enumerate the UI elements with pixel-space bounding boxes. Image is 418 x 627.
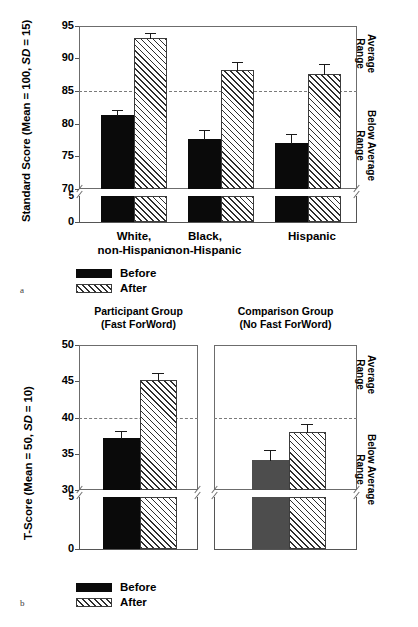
panel-b-bar-before-participant-stub: [103, 497, 140, 549]
panel-b-ytick-35: 35: [50, 448, 74, 459]
panel-b-bar-after-comparison: [289, 432, 326, 490]
panel-b-axis-break-participant-right-icon: [192, 485, 203, 498]
panel-b-legend-label-after: After: [120, 596, 147, 608]
panel-b-errorcap-before-comparison: [264, 450, 276, 451]
panel-b-participant-axis-left-lower: [79, 497, 80, 549]
panel-b-bar-after-comparison-stub: [289, 497, 326, 549]
panel-b-reference-line-40-participant: [79, 418, 198, 419]
panel-b-group-title-participant-line2: (Fast ForWord): [101, 318, 176, 330]
panel-b-legend: Before After: [76, 581, 226, 611]
panel-b-range-label-average: Average Range: [355, 355, 377, 394]
panel-b-bar-after-participant-stub: [140, 497, 177, 549]
figure-root: Standard Score (Mean = 100, SD = 15) 95 …: [0, 0, 418, 627]
panel-b-participant-axis-bottom: [79, 549, 198, 550]
panel-b-tick-50: [75, 345, 79, 346]
panel-b-errorcap-before-participant: [115, 431, 127, 432]
panel-b-comparison-axis-left-lower: [214, 497, 215, 549]
panel-b-axis-break-comparison-left-icon: [209, 485, 220, 498]
panel-b-range-label-average-line2: Range: [355, 359, 366, 390]
panel-b-errorcap-after-participant: [152, 373, 164, 374]
panel-b-group-title-participant-line1: Participant Group: [94, 305, 183, 317]
panel-b-legend-swatch-after: [76, 598, 112, 607]
panel-b-comparison-axis-bottom: [214, 549, 357, 550]
panel-b-y-axis-title-prefix: T-Score (Mean = 50,: [22, 431, 34, 540]
panel-b-errorbar-after-participant: [158, 373, 159, 381]
panel-b-ytick-45: 45: [50, 375, 74, 386]
panel-b-errorcap-after-comparison: [301, 424, 313, 425]
panel-b-range-label-below-line1: Below Average: [366, 434, 377, 505]
panel-b-tick-45: [75, 381, 79, 382]
panel-b-y-axis-title: T-Score (Mean = 50, SD = 10): [22, 386, 34, 540]
panel-b-y-axis-title-italic: SD: [22, 415, 34, 431]
panel-b-y-axis-title-suffix: = 10): [22, 386, 34, 415]
panel-b-errorbar-after-comparison: [307, 424, 308, 433]
panel-b-tick-35: [75, 454, 79, 455]
panel-b-group-title-comparison-line2: (No Fast ForWord): [240, 318, 332, 330]
panel-b-range-label-average-line1: Average: [366, 355, 377, 394]
panel-b-range-label-below-line2: Range: [355, 454, 366, 485]
panel-b-letter: b: [20, 598, 25, 608]
panel-b-tick-0: [75, 549, 79, 550]
panel-b-group-title-comparison-line1: Comparison Group: [238, 305, 334, 317]
panel-b-errorbar-before-participant: [121, 431, 122, 439]
panel-b-ytick-50: 50: [50, 339, 74, 350]
panel-b-ytick-5: 5: [50, 492, 74, 502]
panel-b-legend-item-after: After: [76, 596, 226, 609]
panel-b-participant-axis-right-lower: [197, 497, 198, 549]
panel-b-group-title-comparison: Comparison Group (No Fast ForWord): [214, 305, 357, 331]
panel-b-group-title-participant: Participant Group (Fast ForWord): [79, 305, 198, 331]
panel-b: Participant Group (Fast ForWord) Compari…: [0, 0, 418, 627]
panel-b-axis-break-participant-left-icon: [74, 485, 85, 498]
panel-b-bar-before-comparison-stub: [252, 497, 289, 549]
panel-b-legend-label-before: Before: [120, 581, 156, 593]
panel-b-ytick-40: 40: [50, 412, 74, 423]
panel-b-tick-30: [75, 490, 79, 491]
panel-b-bar-before-comparison: [252, 460, 289, 490]
panel-b-bar-after-participant: [140, 380, 177, 490]
panel-b-ytick-0: 0: [50, 543, 74, 554]
panel-b-reference-line-40-comparison: [214, 418, 357, 419]
panel-b-range-label-below-average: Below Average Range: [355, 434, 377, 505]
panel-b-bar-before-participant: [103, 438, 140, 490]
panel-b-legend-swatch-before: [76, 583, 112, 592]
panel-b-errorbar-before-comparison: [270, 450, 271, 461]
panel-b-legend-item-before: Before: [76, 581, 226, 594]
